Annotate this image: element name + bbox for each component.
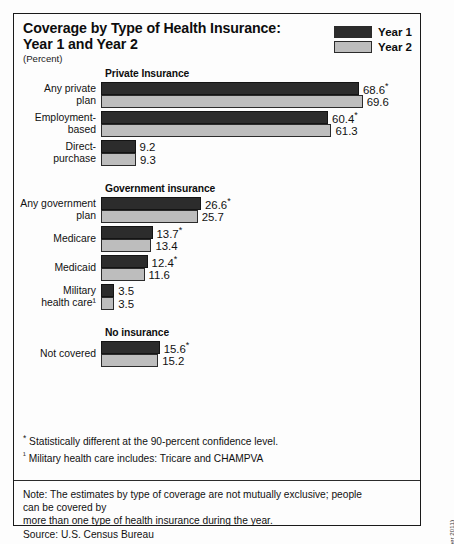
group-title: No insurance — [105, 327, 420, 339]
bar-value-number: 60.4 — [332, 112, 354, 124]
row-label-line: plan — [76, 210, 96, 222]
row-label-line: Not covered — [40, 348, 96, 360]
bar-value-number: 15.2 — [162, 355, 184, 367]
bar-pair: 15.6*15.2 — [101, 341, 420, 367]
bar-y1 — [101, 284, 114, 297]
bar-line-y2: 13.4 — [101, 239, 420, 252]
notes-divider — [14, 480, 420, 481]
chart-row: Medicare13.7*13.4 — [14, 226, 420, 252]
bar-pair: 9.29.3 — [101, 140, 420, 166]
vertical-source-text: Source: U.S. Census Bureau, generated by… — [448, 520, 454, 544]
row-label-line: Military — [63, 285, 96, 297]
significance-marker: * — [227, 196, 231, 206]
chart-group: Government insuranceAny governmentplan26… — [14, 183, 420, 310]
chart-group: No insuranceNot covered15.6*15.2 — [14, 327, 420, 367]
bar-value-label: 69.6 — [367, 96, 389, 108]
bar-value-number: 26.6 — [205, 198, 227, 210]
bar-pair: 3.53.5 — [101, 284, 420, 310]
row-label-line: Employment- — [35, 112, 96, 124]
bar-value-number: 9.2 — [140, 141, 156, 153]
notes-block: Note: The estimates by type of coverage … — [23, 488, 375, 541]
chart-row: Medicaid12.4*11.6 — [14, 255, 420, 281]
bar-line-y2: 25.7 — [101, 210, 420, 223]
bar-value-label: 15.6* — [164, 341, 190, 355]
chart-frame: Coverage by Type of Health Insurance: Ye… — [13, 13, 421, 526]
footnote-star-mark: * — [23, 433, 26, 443]
chart-row: Employment-based60.4*61.3 — [14, 111, 420, 137]
row-label-line: health care¹ — [41, 297, 96, 309]
bar-line-y1: 13.7* — [101, 226, 420, 239]
page-subtitle: (Percent) — [23, 53, 281, 65]
note-line-2: more than one type of health insurance d… — [23, 514, 375, 527]
bar-y1 — [101, 226, 153, 239]
footnote-star-text: Statistically different at the 90-percen… — [29, 436, 278, 447]
chart-header: Coverage by Type of Health Insurance: Ye… — [14, 14, 420, 68]
bar-value-number: 12.4 — [152, 256, 174, 268]
bar-value-label: 12.4* — [152, 255, 178, 269]
bar-value-number: 3.5 — [118, 285, 134, 297]
bar-value-number: 13.7 — [157, 227, 179, 239]
bar-value-label: 26.6* — [205, 197, 231, 211]
bar-line-y1: 12.4* — [101, 255, 420, 268]
bar-line-y1: 60.4* — [101, 111, 420, 124]
chart-group: Private InsuranceAny privateplan68.6*69.… — [14, 68, 420, 166]
row-label-line: Any government — [20, 198, 96, 210]
row-label-line: Medicare — [53, 233, 96, 245]
bar-value-number: 3.5 — [118, 298, 134, 310]
row-label: Not covered — [14, 341, 101, 367]
bar-line-y2: 69.6 — [101, 95, 420, 108]
bar-pair: 60.4*61.3 — [101, 111, 420, 137]
bar-line-y2: 15.2 — [101, 354, 420, 367]
bar-value-number: 11.6 — [149, 269, 170, 281]
bar-y2 — [101, 124, 331, 137]
row-label-line: Direct- — [65, 141, 96, 153]
bar-y1 — [101, 111, 328, 124]
bar-pair: 26.6*25.7 — [101, 197, 420, 223]
row-label: Direct-purchase — [14, 140, 101, 166]
footnote-dagger-text: Military health care includes: Tricare a… — [29, 453, 264, 464]
chart-page: Coverage by Type of Health Insurance: Ye… — [0, 0, 454, 544]
bar-value-number: 61.3 — [335, 125, 357, 137]
legend-item-year1: Year 1 — [334, 25, 412, 38]
group-spacer — [14, 169, 420, 183]
bar-y2 — [101, 239, 151, 252]
bar-y2 — [101, 268, 145, 281]
bar-y2 — [101, 95, 363, 108]
bar-pair: 68.6*69.6 — [101, 82, 420, 108]
bar-y1 — [101, 341, 160, 354]
legend-item-year2: Year 2 — [334, 40, 412, 53]
row-label-line: Any private — [44, 83, 96, 95]
vertical-source-wrap: Source: U.S. Census Bureau, generated by… — [438, 60, 452, 530]
bar-pair: 12.4*11.6 — [101, 255, 420, 281]
row-label-line: purchase — [53, 153, 96, 165]
bar-y2 — [101, 354, 158, 367]
bar-line-y2: 3.5 — [101, 297, 420, 310]
row-label: Any privateplan — [14, 82, 101, 108]
bar-line-y1: 26.6* — [101, 197, 420, 210]
chart-plot-area: Private InsuranceAny privateplan68.6*69.… — [14, 68, 420, 370]
bar-line-y2: 61.3 — [101, 124, 420, 137]
bar-y2 — [101, 210, 198, 223]
bar-pair: 13.7*13.4 — [101, 226, 420, 252]
row-label: Medicaid — [14, 255, 101, 281]
chart-row: Any governmentplan26.6*25.7 — [14, 197, 420, 223]
significance-marker: * — [385, 81, 389, 91]
title-block: Coverage by Type of Health Insurance: Ye… — [23, 20, 281, 65]
bar-line-y1: 9.2 — [101, 140, 420, 153]
footnote-dagger-mark: ¹ — [23, 450, 26, 460]
chart-legend: Year 1 Year 2 — [334, 25, 412, 53]
group-title: Government insurance — [105, 183, 420, 195]
footnote-dagger: ¹ Military health care includes: Tricare… — [23, 449, 363, 466]
bar-value-label: 3.5 — [118, 298, 134, 310]
bar-value-label: 11.6 — [149, 269, 170, 281]
bar-value-label: 13.4 — [155, 240, 177, 252]
legend-label-year2: Year 2 — [378, 41, 412, 53]
row-label-line: Medicaid — [54, 262, 96, 274]
footnotes: * Statistically different at the 90-perc… — [23, 432, 363, 466]
row-label: Employment-based — [14, 111, 101, 137]
bar-value-label: 15.2 — [162, 355, 184, 367]
bar-value-number: 69.6 — [367, 96, 389, 108]
bar-value-label: 3.5 — [118, 285, 134, 297]
bar-y1 — [101, 140, 136, 153]
group-title: Private Insurance — [105, 68, 420, 80]
